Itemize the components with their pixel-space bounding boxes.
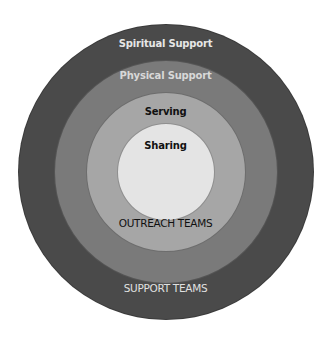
label-spiritual-support: Spiritual Support: [0, 38, 331, 49]
label-outreach-teams: OUTREACH TEAMS: [0, 217, 331, 229]
ring-sharing: [117, 123, 215, 221]
label-physical-support: Physical Support: [0, 70, 331, 81]
label-serving: Serving: [0, 106, 331, 117]
concentric-diagram: Spiritual Support Physical Support Servi…: [0, 0, 331, 343]
label-sharing: Sharing: [0, 140, 331, 151]
label-support-teams: SUPPORT TEAMS: [0, 282, 331, 294]
